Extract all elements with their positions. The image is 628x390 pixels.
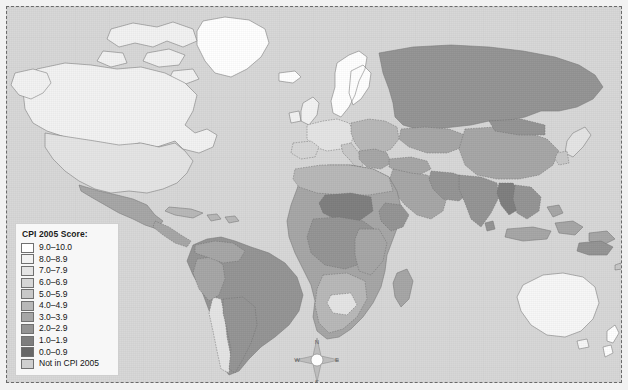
compass-label-north: N xyxy=(315,339,319,345)
legend-label: 5.0–5.9 xyxy=(39,289,67,300)
legend-swatch xyxy=(21,359,34,369)
legend-row: 6.0–6.9 xyxy=(21,277,113,289)
legend-swatch xyxy=(21,266,34,276)
legend-swatch xyxy=(21,254,34,264)
legend-label: 3.0–3.9 xyxy=(39,312,67,323)
legend-swatch xyxy=(21,324,34,334)
map-screenshot: N S E W CPI 2005 Score: 9.0–10.08.0–8.97… xyxy=(0,0,628,390)
legend-row: 4.0–4.9 xyxy=(21,300,113,312)
legend-swatch xyxy=(21,312,34,322)
legend-swatch xyxy=(21,347,34,357)
legend-label: 0.0–0.9 xyxy=(39,347,67,358)
legend-swatch xyxy=(21,336,34,346)
legend-row: 5.0–5.9 xyxy=(21,288,113,300)
legend-swatch xyxy=(21,243,34,253)
legend-label: 7.0–7.9 xyxy=(39,265,67,276)
legend-label: 8.0–8.9 xyxy=(39,254,67,265)
compass-rose: N S E W xyxy=(289,334,345,383)
legend-row: 2.0–2.9 xyxy=(21,323,113,335)
legend-row: 7.0–7.9 xyxy=(21,265,113,277)
legend-label: 6.0–6.9 xyxy=(39,277,67,288)
legend-swatch xyxy=(21,301,34,311)
legend-title: CPI 2005 Score: xyxy=(22,229,113,239)
legend-row: 9.0–10.0 xyxy=(21,242,113,254)
legend-row: 3.0–3.9 xyxy=(21,312,113,324)
legend-row: 0.0–0.9 xyxy=(21,346,113,358)
compass-center-hub xyxy=(311,354,323,366)
region-tasmania xyxy=(577,339,589,349)
region-sri-lanka xyxy=(485,221,495,231)
legend-rows: 9.0–10.08.0–8.97.0–7.96.0–6.95.0–5.94.0–… xyxy=(21,242,113,370)
compass-label-west: W xyxy=(294,357,300,363)
legend-label: 4.0–4.9 xyxy=(39,300,67,311)
legend-row: 8.0–8.9 xyxy=(21,254,113,266)
legend-label: 2.0–2.9 xyxy=(39,323,67,334)
compass-label-south: S xyxy=(315,379,319,383)
legend-row: 1.0–1.9 xyxy=(21,335,113,347)
legend-panel: CPI 2005 Score: 9.0–10.08.0–8.97.0–7.96.… xyxy=(15,223,119,376)
legend-label: 1.0–1.9 xyxy=(39,335,67,346)
legend-label: 9.0–10.0 xyxy=(39,242,72,253)
legend-row: Not in CPI 2005 xyxy=(21,358,113,370)
legend-label: Not in CPI 2005 xyxy=(39,358,99,369)
compass-label-east: E xyxy=(335,357,339,363)
legend-swatch xyxy=(21,289,34,299)
legend-swatch xyxy=(21,278,34,288)
map-frame: N S E W CPI 2005 Score: 9.0–10.08.0–8.97… xyxy=(6,6,622,383)
